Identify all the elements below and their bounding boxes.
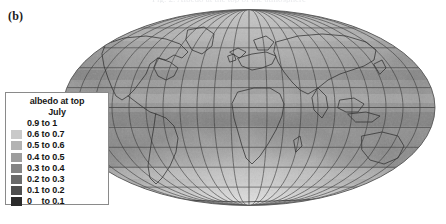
legend-color-swatch <box>11 186 22 195</box>
panel-label: (b) <box>8 10 23 22</box>
legend-range-label: 0.1 to 0.2 <box>27 185 65 196</box>
legend-color-swatch <box>11 197 22 206</box>
legend-color-swatch <box>11 175 22 184</box>
legend-color-swatch <box>11 119 22 128</box>
map-legend: albedo at top July 0.9 to 10.6 to 0.70.5… <box>5 92 109 205</box>
legend-row: 0.9 to 1 <box>11 118 108 129</box>
legend-range-label: 0.4 to 0.5 <box>27 152 65 163</box>
legend-row: 0.5 to 0.6 <box>11 140 108 151</box>
legend-range-label: 0.5 to 0.6 <box>27 140 65 151</box>
legend-range-label: 0.3 to 0.4 <box>27 163 65 174</box>
legend-row: 0.2 to 0.3 <box>11 174 108 185</box>
legend-row: 0.3 to 0.4 <box>11 163 108 174</box>
legend-color-swatch <box>11 153 22 162</box>
legend-row: 0.1 to 0.2 <box>11 185 108 196</box>
legend-row: 0.6 to 0.7 <box>11 129 108 140</box>
legend-range-label: 0.9 to 1 <box>27 118 57 129</box>
figure-panel-b: Fig. 2. Albedo at the top of the atmosph… <box>0 0 446 224</box>
legend-color-swatch <box>11 141 22 150</box>
legend-color-swatch <box>11 164 22 173</box>
world-albedo-map <box>62 8 436 207</box>
legend-range-label: 0 to 0.1 <box>27 196 64 207</box>
legend-row: 0.4 to 0.5 <box>11 152 108 163</box>
mollweide-map-svg <box>62 8 436 207</box>
legend-subtitle: July <box>6 107 108 119</box>
legend-title: albedo at top <box>6 93 108 107</box>
cropped-caption-sliver: Fig. 2. Albedo at the top of the atmosph… <box>104 0 354 3</box>
legend-entry-list: 0.9 to 10.6 to 0.70.5 to 0.60.4 to 0.50.… <box>6 118 108 208</box>
legend-row: 0 to 0.1 <box>11 196 108 207</box>
legend-range-label: 0.2 to 0.3 <box>27 174 65 185</box>
legend-range-label: 0.6 to 0.7 <box>27 129 65 140</box>
legend-color-swatch <box>11 130 22 139</box>
